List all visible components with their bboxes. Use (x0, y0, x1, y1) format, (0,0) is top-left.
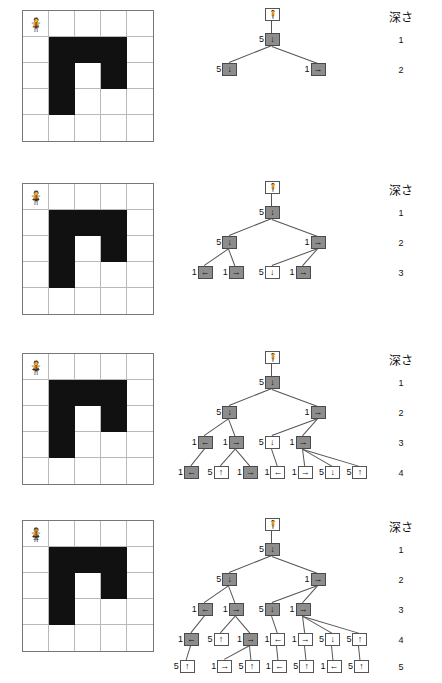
maze-open-cell (101, 262, 127, 288)
tree-node-arrow-down-icon[interactable]: ↓ (265, 206, 280, 219)
tree-node-arrow-up-icon[interactable]: ↑ (352, 633, 367, 646)
tree-node-arrow-left-icon[interactable]: ← (327, 660, 342, 673)
tree-edge (302, 616, 305, 633)
maze-wall-cell (49, 63, 75, 89)
tree-node-arrow-down-icon[interactable]: ↓ (265, 33, 280, 46)
tree-node-arrow-left-icon[interactable]: ← (198, 603, 213, 616)
maze-open-cell (75, 184, 101, 210)
tree-node-arrow-down-icon[interactable]: ↓ (265, 376, 280, 389)
tree-node-person-icon[interactable]: 🧍 (265, 518, 280, 531)
tree-node-arrow-down-icon[interactable]: ↓ (265, 603, 280, 616)
tree-node-arrow-right-icon[interactable]: → (298, 633, 313, 646)
maze-cell-marker: ↓ (23, 11, 49, 37)
tree-node-person-icon[interactable]: 🧍 (265, 181, 280, 194)
maze-open-cell (101, 521, 127, 547)
depth-level-number: 3 (378, 438, 424, 448)
tree-node-arrow-down-icon[interactable]: ↓ (265, 266, 280, 279)
maze-open-cell (49, 115, 75, 141)
search-tree: 🧍↓5↓5→1←1→1↓5→1←1↑5→1←1→1↓5↑5↑5→1↑5←1↑5←… (170, 510, 370, 680)
tree-node-arrow-right-icon[interactable]: → (217, 660, 232, 673)
tree-node-arrow-right-icon[interactable]: → (296, 603, 311, 616)
tree-node-arrow-left-icon[interactable]: ← (270, 466, 285, 479)
tree-node-arrow-left-icon[interactable]: ← (272, 660, 287, 673)
tree-node-arrow-up-icon[interactable]: ↑ (245, 660, 260, 673)
maze-open-cell (101, 89, 127, 115)
tree-node-arrow-down-icon[interactable]: ↓ (325, 466, 340, 479)
tree-node-arrow-left-icon[interactable]: ← (198, 266, 213, 279)
tree-edge (271, 21, 272, 33)
maze-open-cell (127, 115, 153, 141)
tree-node-arrow-up-icon[interactable]: ↑ (299, 660, 314, 673)
tree-node-arrow-down-icon[interactable]: ↓ (325, 633, 340, 646)
tree-edge (271, 531, 272, 543)
tree-node-arrow-down-icon[interactable]: ↓ (222, 63, 237, 76)
tree-edge (272, 46, 318, 64)
tree-node-arrow-down-icon[interactable]: ↓ (265, 436, 280, 449)
tree-node-cost-label: 5 (340, 635, 351, 644)
tree-node-arrow-left-icon[interactable]: ← (198, 436, 213, 449)
tree-node-arrow-right-icon[interactable]: → (229, 436, 244, 449)
tree-edge (204, 418, 229, 436)
maze-open-cell (75, 115, 101, 141)
tree-node-cost-label: 1 (186, 268, 197, 277)
tree-node-person-icon[interactable]: 🧍 (265, 8, 280, 21)
maze-wall-cell (75, 380, 101, 406)
tree-node-arrow-right-icon[interactable]: → (243, 466, 258, 479)
maze-open-cell (49, 458, 75, 484)
tree-node-arrow-right-icon[interactable]: → (311, 406, 326, 419)
tree-edge (229, 388, 272, 406)
maze-grid: ☆🧍↓→→←←↓→→ (22, 353, 154, 485)
maze-open-cell (75, 521, 101, 547)
maze-open-cell (127, 406, 153, 432)
tree-node-arrow-down-icon[interactable]: ↓ (222, 236, 237, 249)
tree-node-cost-label: 5 (313, 635, 324, 644)
tree-node-arrow-down-icon[interactable]: ↓ (265, 543, 280, 556)
depth-level-number: 1 (378, 208, 424, 218)
tree-node-arrow-up-icon[interactable]: ↑ (214, 466, 229, 479)
maze-cell-marker: → (23, 354, 49, 380)
tree-node-arrow-down-icon[interactable]: ↓ (222, 573, 237, 586)
tree-edge (190, 615, 204, 633)
tree-node-arrow-up-icon[interactable]: ↑ (180, 660, 195, 673)
tree-edge (228, 586, 235, 603)
maze-wall-cell (49, 432, 75, 458)
tree-node-arrow-right-icon[interactable]: → (229, 266, 244, 279)
tree-node-cost-label: 1 (284, 268, 295, 277)
maze-open-cell (75, 573, 101, 599)
depth-header-label: 深さ (378, 518, 424, 535)
tree-node-cost-label: 1 (299, 408, 310, 417)
tree-node-arrow-right-icon[interactable]: → (296, 266, 311, 279)
maze-wall-cell (75, 37, 101, 63)
tree-node-arrow-left-icon[interactable]: ← (270, 633, 285, 646)
tree-node-cost-label: 1 (258, 468, 269, 477)
tree-node-arrow-right-icon[interactable]: → (296, 436, 311, 449)
tree-node-arrow-left-icon[interactable]: ← (184, 466, 199, 479)
tree-node-cost-label: 5 (287, 662, 298, 671)
tree-node-arrow-up-icon[interactable]: ↑ (214, 633, 229, 646)
maze-open-cell (127, 599, 153, 625)
maze-open-cell (127, 210, 153, 236)
tree-node-arrow-up-icon[interactable]: ↑ (354, 660, 369, 673)
maze-wall-cell (101, 406, 127, 432)
tree-node-arrow-right-icon[interactable]: → (229, 603, 244, 616)
tree-node-arrow-right-icon[interactable]: → (243, 633, 258, 646)
tree-node-arrow-down-icon[interactable]: ↓ (222, 406, 237, 419)
depth-level-number: 2 (378, 238, 424, 248)
tree-edge (229, 45, 272, 63)
tree-node-arrow-right-icon[interactable]: → (311, 63, 326, 76)
tree-node-arrow-right-icon[interactable]: → (311, 573, 326, 586)
tree-node-arrow-right-icon[interactable]: → (298, 466, 313, 479)
maze-open-cell (101, 11, 127, 37)
tree-node-arrow-right-icon[interactable]: → (311, 236, 326, 249)
tree-node-cost-label: 1 (286, 468, 297, 477)
maze-open-cell (101, 354, 127, 380)
tree-node-arrow-left-icon[interactable]: ← (184, 633, 199, 646)
tree-node-cost-label: 1 (186, 605, 197, 614)
maze-wall-cell (49, 380, 75, 406)
tree-edge (271, 449, 278, 466)
tree-node-cost-label: 5 (202, 468, 213, 477)
tree-node-person-icon[interactable]: 🧍 (265, 351, 280, 364)
tree-node-cost-label: 1 (217, 605, 228, 614)
tree-edge (204, 585, 229, 603)
tree-node-arrow-up-icon[interactable]: ↑ (352, 466, 367, 479)
